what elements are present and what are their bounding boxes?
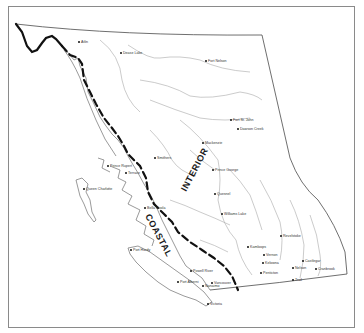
town-label: Victoria	[210, 302, 222, 306]
town-marker: Dease Lake	[120, 51, 142, 55]
town-marker: Vernon	[263, 253, 277, 257]
town-label: Vancouver	[214, 281, 232, 285]
town-dot-icon	[144, 207, 146, 209]
town-marker: Cranbrook	[315, 267, 335, 271]
town-marker: Kamloops	[247, 245, 266, 249]
town-dot-icon	[154, 157, 156, 159]
town-label: Dease Lake	[123, 51, 142, 55]
town-marker: Victoria	[207, 302, 222, 306]
town-marker: Williams Lake	[221, 212, 246, 216]
region-label-interior: INTERIOR	[179, 146, 210, 193]
town-dot-icon	[263, 254, 265, 256]
town-dot-icon	[302, 260, 304, 262]
town-dot-icon	[292, 279, 294, 281]
town-label: Port Hardy	[133, 248, 150, 252]
town-label: Cranbrook	[318, 267, 335, 271]
town-marker: Vancouver	[211, 281, 232, 285]
town-marker: Smithers	[154, 156, 171, 160]
town-label: Kamloops	[250, 245, 266, 249]
town-label: Prince George	[215, 168, 238, 172]
town-marker: Fort Nelson	[205, 59, 226, 63]
town-dot-icon	[315, 268, 317, 270]
town-label: Prince Rupert	[110, 164, 132, 168]
town-marker: Port Alberni	[177, 280, 199, 284]
town-label: Williams Lake	[224, 212, 246, 216]
town-dot-icon	[78, 41, 80, 43]
town-marker: Bella Coola	[144, 206, 165, 210]
town-marker: Prince George	[212, 168, 238, 172]
town-label: Fort St. John	[233, 118, 254, 122]
town-marker: Castlegar	[302, 259, 321, 263]
town-marker: Atlin	[78, 40, 88, 44]
town-dot-icon	[230, 119, 232, 121]
town-dot-icon	[221, 213, 223, 215]
town-dot-icon	[237, 128, 239, 130]
town-label: Castlegar	[305, 259, 321, 263]
town-label: Nelson	[295, 266, 306, 270]
town-marker: Prince Rupert	[107, 164, 132, 168]
town-dot-icon	[292, 267, 294, 269]
town-label: Vernon	[266, 253, 277, 257]
town-label: Revelstoke	[283, 234, 301, 238]
town-label: Trail	[295, 278, 302, 282]
town-marker: Mackenzie	[202, 141, 222, 145]
town-dot-icon	[260, 272, 262, 274]
town-dot-icon	[125, 172, 127, 174]
town-label: Dawson Creek	[240, 127, 264, 131]
town-label: Mackenzie	[205, 141, 222, 145]
town-marker: Kelowna	[262, 261, 279, 265]
town-label: Port Alberni	[180, 280, 199, 284]
town-label: Smithers	[157, 156, 171, 160]
town-dot-icon	[280, 235, 282, 237]
town-label: Queen Charlotte	[86, 187, 112, 191]
town-label: Powell River	[193, 269, 214, 273]
bc-map: COASTAL INTERIOR AtlinDease LakeFort Nel…	[0, 0, 364, 333]
town-dot-icon	[207, 303, 209, 305]
town-marker: Terrace	[125, 171, 140, 175]
town-dot-icon	[190, 270, 192, 272]
town-dot-icon	[247, 246, 249, 248]
town-marker: Fort St. John	[230, 118, 253, 122]
town-marker: Port Hardy	[130, 248, 150, 252]
town-label: Kelowna	[265, 261, 279, 265]
town-dot-icon	[130, 249, 132, 251]
town-dot-icon	[202, 142, 204, 144]
town-dot-icon	[107, 165, 109, 167]
town-label: Atlin	[81, 40, 88, 44]
town-marker: Dawson Creek	[237, 127, 264, 131]
town-marker: Nelson	[292, 266, 306, 270]
town-marker: Queen Charlotte	[83, 187, 112, 191]
town-dot-icon	[177, 281, 179, 283]
town-label: Bella Coola	[147, 206, 165, 210]
town-marker: Revelstoke	[280, 234, 301, 238]
town-dot-icon	[212, 169, 214, 171]
town-label: Penticton	[263, 271, 278, 275]
town-dot-icon	[120, 52, 122, 54]
town-dot-icon	[83, 188, 85, 190]
town-dot-icon	[205, 60, 207, 62]
town-marker: Quesnel	[214, 192, 230, 196]
town-label: Quesnel	[217, 192, 231, 196]
province-outline	[16, 24, 347, 306]
town-marker: Penticton	[260, 271, 278, 275]
town-dot-icon	[262, 262, 264, 264]
town-dot-icon	[211, 282, 213, 284]
town-dot-icon	[214, 193, 216, 195]
town-marker: Trail	[292, 278, 302, 282]
town-dot-icon	[202, 285, 204, 287]
town-label: Fort Nelson	[208, 59, 227, 63]
town-label: Terrace	[128, 171, 140, 175]
town-marker: Powell River	[190, 269, 214, 273]
